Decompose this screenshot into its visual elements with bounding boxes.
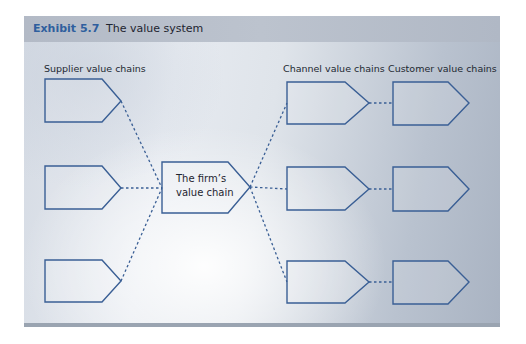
connector-firm-channel-1 (250, 103, 287, 187)
connector-firm-channel-2 (250, 187, 287, 189)
supplier-value-chain-1 (45, 79, 121, 122)
supplier-value-chain-2 (45, 166, 121, 209)
connector-supplier-1-firm (121, 101, 162, 188)
connector-supplier-3-firm (121, 188, 162, 281)
customer-value-chain-3 (393, 261, 469, 304)
channel-value-chain-1 (287, 82, 369, 124)
firm-label-line-1: The firm’s (176, 172, 226, 186)
value-system-diagram (0, 0, 526, 344)
customer-value-chain-1 (393, 82, 469, 125)
channel-value-chain-3 (287, 261, 369, 303)
connector-firm-channel-3 (250, 187, 287, 282)
customer-value-chain-2 (393, 167, 469, 211)
supplier-value-chain-3 (45, 260, 121, 302)
channel-value-chain-2 (287, 167, 369, 210)
firm-label-line-2: value chain (176, 186, 234, 200)
